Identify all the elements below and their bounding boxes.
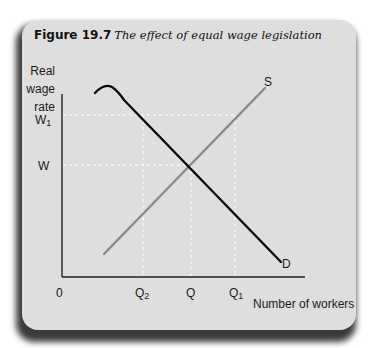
x-tick-q1: Q1 xyxy=(229,286,243,301)
demand-label: D xyxy=(282,257,291,271)
y-tick-w1-sub: 1 xyxy=(46,118,51,128)
origin-label: 0 xyxy=(56,286,63,300)
y-axis-label-line3: rate xyxy=(34,100,55,114)
chart: Real wage rate W1 W 0 Q2 Q Q1 Number of … xyxy=(0,0,369,348)
x-tick-q2-sub: 2 xyxy=(144,291,149,301)
y-tick-w1: W1 xyxy=(35,113,51,128)
x-tick-q1-sub: 1 xyxy=(238,291,243,301)
supply-curve xyxy=(104,88,265,254)
y-tick-w: W xyxy=(38,159,50,173)
x-axis-label: Number of workers xyxy=(253,297,354,311)
x-tick-q: Q xyxy=(186,286,195,300)
supply-label: S xyxy=(264,75,272,89)
x-tick-q1-main: Q xyxy=(229,286,238,300)
y-axis-label-line1: Real xyxy=(30,64,55,78)
y-tick-w1-main: W xyxy=(35,113,47,127)
guide-lines xyxy=(63,115,235,276)
x-tick-q2-main: Q xyxy=(135,286,144,300)
x-tick-q2: Q2 xyxy=(135,286,149,301)
y-axis-label-line2: wage xyxy=(25,82,55,96)
